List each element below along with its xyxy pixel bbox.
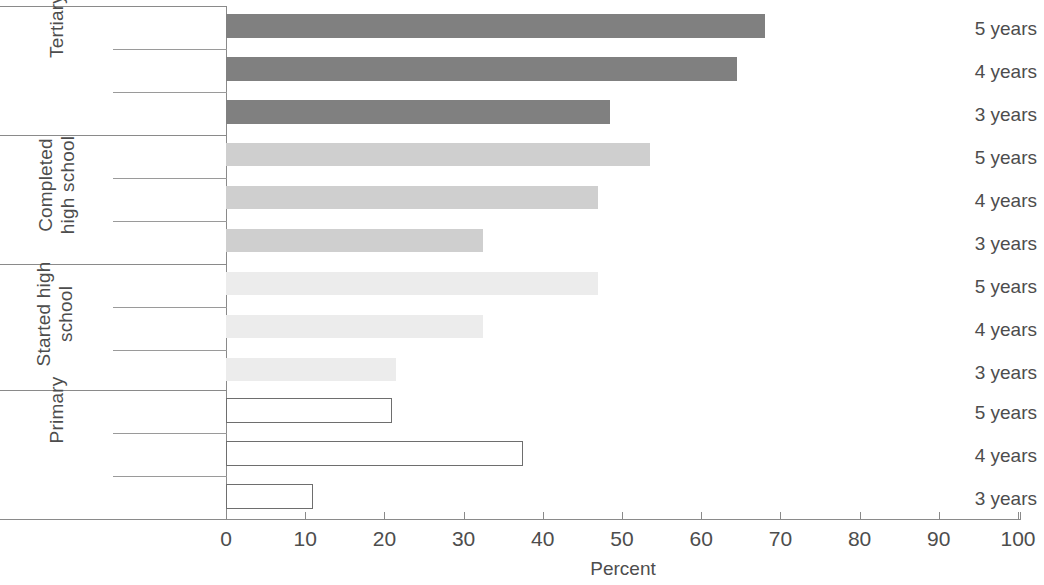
row-separator-5 — [113, 350, 227, 351]
x-axis-tick-90 — [939, 512, 940, 519]
x-axis-tick-30 — [464, 512, 465, 519]
row-separator-4 — [113, 307, 227, 308]
x-axis-tick-10 — [305, 512, 306, 519]
x-axis-line — [0, 519, 1021, 520]
x-axis-tick-label-50: 50 — [610, 527, 633, 551]
x-axis-tick-60 — [701, 512, 702, 519]
bar-completed-4-years — [226, 186, 598, 209]
row-separator-0 — [113, 49, 227, 50]
x-axis-tick-label-0: 0 — [220, 527, 232, 551]
x-axis-tick-70 — [780, 512, 781, 519]
bar-completed-5-years — [226, 143, 650, 166]
x-axis-tick-50 — [622, 512, 623, 519]
row-label-primary-5-years: 5 years — [810, 403, 1044, 422]
row-label-tertiary-5-years: 5 years — [810, 19, 1044, 38]
row-label-completed-3-years: 3 years — [810, 234, 1044, 253]
x-axis-tick-label-70: 70 — [769, 527, 792, 551]
row-separator-6 — [113, 433, 227, 434]
row-separator-3 — [113, 221, 227, 222]
bar-completed-3-years — [226, 229, 483, 252]
bar-tertiary-4-years — [226, 57, 737, 81]
row-label-primary-4-years: 4 years — [810, 446, 1044, 465]
group-label-primary: Primary — [37, 346, 77, 475]
bar-started-5-years — [226, 272, 598, 295]
row-separator-2 — [113, 178, 227, 179]
x-axis-title: Percent — [590, 558, 655, 580]
bar-chart: Tertiary Completed high school Started h… — [0, 0, 1044, 585]
row-separator-1 — [113, 92, 227, 93]
chart-top-rule — [0, 6, 227, 7]
x-axis-tick-40 — [543, 512, 544, 519]
bar-primary-4-years — [226, 441, 523, 466]
row-label-started-5-years: 5 years — [810, 277, 1044, 296]
row-separator-7 — [113, 476, 227, 477]
bar-started-3-years — [226, 358, 396, 381]
row-label-completed-5-years: 5 years — [810, 148, 1044, 167]
row-label-completed-4-years: 4 years — [810, 191, 1044, 210]
x-axis-right-cap — [1020, 512, 1021, 520]
group-separator-started-primary — [0, 390, 227, 391]
x-axis-tick-label-10: 10 — [294, 527, 317, 551]
bar-primary-3-years — [226, 484, 313, 509]
group-label-completed-high-school: Completed high school — [7, 121, 107, 250]
bar-tertiary-3-years — [226, 100, 610, 124]
x-axis-tick-label-30: 30 — [452, 527, 475, 551]
row-label-tertiary-3-years: 3 years — [810, 105, 1044, 124]
x-axis-tick-label-80: 80 — [848, 527, 871, 551]
row-label-tertiary-4-years: 4 years — [810, 62, 1044, 81]
x-axis-tick-0 — [226, 512, 227, 519]
x-axis-tick-80 — [860, 512, 861, 519]
x-axis-tick-label-20: 20 — [373, 527, 396, 551]
row-label-started-4-years: 4 years — [810, 320, 1044, 339]
row-label-started-3-years: 3 years — [810, 363, 1044, 382]
x-axis-tick-label-60: 60 — [690, 527, 713, 551]
x-axis-tick-label-40: 40 — [531, 527, 554, 551]
group-label-tertiary: Tertiary — [37, 0, 77, 91]
x-axis-tick-100 — [1018, 512, 1019, 519]
x-axis-tick-label-90: 90 — [927, 527, 950, 551]
bar-tertiary-5-years — [226, 14, 765, 38]
x-axis-tick-label-100: 100 — [1000, 527, 1035, 551]
bar-primary-5-years — [226, 398, 392, 423]
bar-started-4-years — [226, 315, 483, 338]
row-label-primary-3-years: 3 years — [810, 489, 1044, 508]
x-axis-tick-20 — [384, 512, 385, 519]
